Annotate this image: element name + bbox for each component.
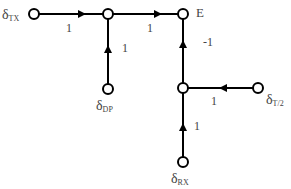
gain-tx-j1: 1	[66, 21, 72, 35]
node-dp	[103, 84, 113, 94]
node-label-e: E	[196, 5, 204, 20]
arrow-icon	[154, 10, 162, 18]
node-label-dp: δDP	[96, 98, 113, 114]
gain-t2-j2: 1	[211, 94, 217, 108]
gain-dp-j1: 1	[122, 41, 128, 55]
arrow-icon	[179, 40, 187, 48]
node-label-rx: δRX	[171, 171, 189, 187]
node-t2	[253, 83, 263, 93]
arrow-icon	[78, 10, 86, 18]
node-label-t2: δT/2	[266, 92, 284, 108]
gain-rx-j2: 1	[194, 119, 200, 133]
arrow-icon	[104, 45, 112, 53]
node-junction-2	[178, 83, 188, 93]
gain-j2-e: -1	[203, 35, 213, 49]
node-e	[178, 9, 188, 19]
arrow-icon	[179, 123, 187, 131]
node-rx	[178, 157, 188, 167]
node-tx	[29, 9, 39, 19]
node-junction-1	[103, 9, 113, 19]
node-label-tx: δTX	[2, 7, 19, 23]
arrow-icon	[219, 84, 227, 92]
gain-j1-e: 1	[147, 21, 153, 35]
signal-flow-graph: δTX E δDP δT/2 δRX 1 1 1 -1 1 1	[0, 0, 291, 189]
